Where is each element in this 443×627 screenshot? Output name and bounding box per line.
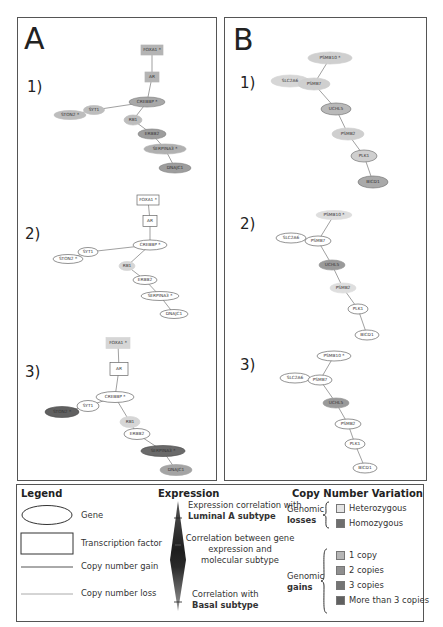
svg-text:PLK1: PLK1 bbox=[353, 306, 364, 311]
node-ston2[interactable]: STON2 * bbox=[45, 407, 79, 418]
svg-text:PSMB2: PSMB2 bbox=[336, 285, 351, 290]
legend-gain-label: Copy number gain bbox=[81, 561, 158, 571]
cnv-heterozygous-label: Heterozygous bbox=[349, 503, 407, 513]
node-ston2[interactable]: STON2 * bbox=[54, 111, 86, 120]
cnv-losses-label1: Genomic bbox=[287, 504, 324, 514]
expression-mid-line1: Correlation between gene bbox=[185, 533, 295, 543]
node-dnajc1[interactable]: DNAJC1 bbox=[160, 465, 192, 476]
node-psmb7[interactable]: PSMB7 bbox=[305, 236, 331, 246]
svg-text:ERBB2: ERBB2 bbox=[145, 131, 160, 136]
network-panel-b-3: PSMB10 *SLC2A6PSMB7UCHL5PSMB2PLK1BICD1 bbox=[280, 351, 377, 473]
node-slc2a6[interactable]: SLC2A6 bbox=[276, 233, 306, 243]
cnv-2-copies-label: 2 copies bbox=[349, 565, 384, 575]
legend-gene-label: Gene bbox=[81, 510, 103, 520]
node-syt1[interactable]: SYT1 bbox=[78, 248, 98, 257]
node-slc2a6[interactable]: SLC2A6 bbox=[280, 373, 310, 383]
node-ar[interactable]: AR bbox=[110, 363, 128, 376]
expression-mid-line2: expression and bbox=[185, 544, 295, 554]
node-crebbp[interactable]: CREBBP * bbox=[133, 240, 167, 250]
node-foxa1[interactable]: FOXA1 * bbox=[141, 45, 163, 55]
node-psmb10[interactable]: PSMB10 * bbox=[316, 211, 352, 220]
svg-text:FOXA1 *: FOXA1 * bbox=[139, 197, 158, 202]
gains-brace-icon bbox=[320, 548, 328, 614]
svg-text:SYT1: SYT1 bbox=[89, 107, 100, 112]
node-syt1[interactable]: SYT1 bbox=[84, 106, 105, 115]
svg-text:PSMB7: PSMB7 bbox=[307, 81, 322, 86]
heterozygous-swatch bbox=[336, 504, 345, 513]
node-crebbp[interactable]: CREBBP * bbox=[129, 97, 165, 107]
cnv-losses-label2: losses bbox=[287, 515, 316, 525]
node-foxa1[interactable]: FOXA1 * bbox=[137, 195, 159, 205]
legend-box: Legend Gene Transcription factor Copy nu… bbox=[16, 484, 424, 622]
node-serpina3[interactable]: SERPINA3 * bbox=[141, 292, 179, 301]
node-rb1[interactable]: RB1 bbox=[124, 115, 142, 125]
node-psmb7[interactable]: PSMB7 bbox=[298, 78, 330, 90]
svg-text:UCHL5: UCHL5 bbox=[325, 262, 340, 267]
svg-text:CREBBP *: CREBBP * bbox=[140, 242, 162, 247]
svg-text:SERPINA3 *: SERPINA3 * bbox=[153, 146, 179, 151]
node-serpina3[interactable]: SERPINA3 * bbox=[144, 144, 186, 154]
svg-text:AR: AR bbox=[147, 218, 153, 223]
losses-brace-icon bbox=[322, 501, 330, 529]
svg-text:SYT1: SYT1 bbox=[83, 403, 94, 408]
svg-text:FOXA1 *: FOXA1 * bbox=[109, 340, 128, 345]
node-ar[interactable]: AR bbox=[145, 72, 159, 82]
svg-text:SYT1: SYT1 bbox=[83, 249, 94, 254]
node-psmb2[interactable]: PSMB2 bbox=[330, 283, 356, 293]
svg-text:DNAJC1: DNAJC1 bbox=[167, 165, 184, 170]
node-dnajc1[interactable]: DNAJC1 bbox=[160, 310, 188, 319]
node-bicd1[interactable]: BICD1 bbox=[355, 330, 379, 340]
svg-text:AR: AR bbox=[149, 74, 155, 79]
expression-top-line1: Expression correlation with bbox=[188, 500, 302, 510]
svg-text:CREBBP *: CREBBP * bbox=[137, 99, 159, 104]
network-panel-a-2: FOXA1 *ARCREBBP *SYT1STON2 *RB1ERBB2SERP… bbox=[53, 195, 188, 319]
node-psmb10[interactable]: PSMB10 * bbox=[308, 52, 352, 64]
cnv-homozygous-label: Homozygous bbox=[349, 518, 403, 528]
cnv-3-copies-label: 3 copies bbox=[349, 580, 384, 590]
cnv-gains-label2: gains bbox=[287, 582, 312, 592]
svg-text:BICD1: BICD1 bbox=[360, 332, 374, 337]
svg-text:STON2 *: STON2 * bbox=[61, 112, 80, 117]
svg-text:UCHL5: UCHL5 bbox=[329, 106, 344, 111]
network-panel-a-3: FOXA1 *ARCREBBP *SYT1STON2 *RB1ERBB2SERP… bbox=[45, 338, 192, 476]
svg-text:ERBB2: ERBB2 bbox=[130, 431, 145, 436]
expression-title: Expression bbox=[158, 488, 219, 499]
homozygous-swatch bbox=[336, 519, 345, 528]
node-psmb7[interactable]: PSMB7 bbox=[308, 375, 332, 385]
node-erbb2[interactable]: ERBB2 bbox=[138, 129, 166, 139]
node-uchl5[interactable]: UCHL5 bbox=[321, 103, 351, 115]
node-erbb2[interactable]: ERBB2 bbox=[124, 429, 150, 440]
gene-ellipse-icon bbox=[20, 504, 74, 526]
svg-text:ERBB2: ERBB2 bbox=[138, 277, 153, 282]
node-dnajc1[interactable]: DNAJC1 bbox=[159, 163, 191, 173]
node-plk1[interactable]: PLK1 bbox=[348, 304, 368, 314]
svg-text:PSMB10 *: PSMB10 * bbox=[324, 212, 346, 217]
cnv-more-than-3-label: More than 3 copies bbox=[349, 595, 429, 605]
node-rb1[interactable]: RB1 bbox=[120, 417, 140, 428]
node-serpina3[interactable]: SERPINA3 * bbox=[141, 446, 185, 457]
more-than-3-copies-swatch bbox=[336, 596, 345, 605]
node-uchl5[interactable]: UCHL5 bbox=[323, 398, 349, 408]
svg-text:BICD1: BICD1 bbox=[358, 465, 372, 470]
node-syt1[interactable]: SYT1 bbox=[77, 401, 99, 412]
one-copy-swatch bbox=[336, 551, 345, 560]
legend-title: Legend bbox=[21, 488, 62, 499]
node-bicd1[interactable]: BICD1 bbox=[353, 463, 377, 473]
svg-text:SLC2A6: SLC2A6 bbox=[282, 78, 299, 83]
node-psmb10[interactable]: PSMB10 * bbox=[317, 351, 351, 361]
node-psmb2[interactable]: PSMB2 bbox=[335, 419, 361, 429]
network-panel-b-1: PSMB10 *SLC2A6PSMB7UCHL5PSMB2PLK1BICD1 bbox=[271, 52, 388, 188]
node-foxa1[interactable]: FOXA1 * bbox=[106, 338, 130, 349]
node-erbb2[interactable]: ERBB2 bbox=[133, 276, 157, 285]
node-plk1[interactable]: PLK1 bbox=[345, 439, 365, 449]
node-rb1[interactable]: RB1 bbox=[119, 262, 135, 271]
node-uchl5[interactable]: UCHL5 bbox=[319, 260, 345, 270]
svg-text:PLK1: PLK1 bbox=[350, 441, 361, 446]
node-ston2[interactable]: STON2 * bbox=[53, 255, 83, 264]
node-crebbp[interactable]: CREBBP * bbox=[96, 392, 134, 403]
cnv-1-copy-label: 1 copy bbox=[349, 550, 377, 560]
node-plk1[interactable]: PLK1 bbox=[351, 150, 377, 162]
node-ar[interactable]: AR bbox=[143, 216, 157, 227]
node-psmb2[interactable]: PSMB2 bbox=[332, 128, 364, 140]
node-bicd1[interactable]: BICD1 bbox=[358, 176, 388, 188]
